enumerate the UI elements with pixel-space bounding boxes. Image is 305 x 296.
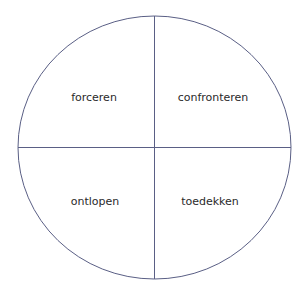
quadrant-diagram: forceren confronteren ontlopen toedekken: [0, 0, 305, 296]
circle-outline: [0, 0, 305, 296]
quadrant-label-top-right: confronteren: [178, 92, 249, 104]
quadrant-label-top-left: forceren: [71, 92, 117, 104]
quadrant-label-bottom-right: toedekken: [181, 196, 239, 208]
quadrant-label-bottom-left: ontlopen: [71, 196, 120, 208]
